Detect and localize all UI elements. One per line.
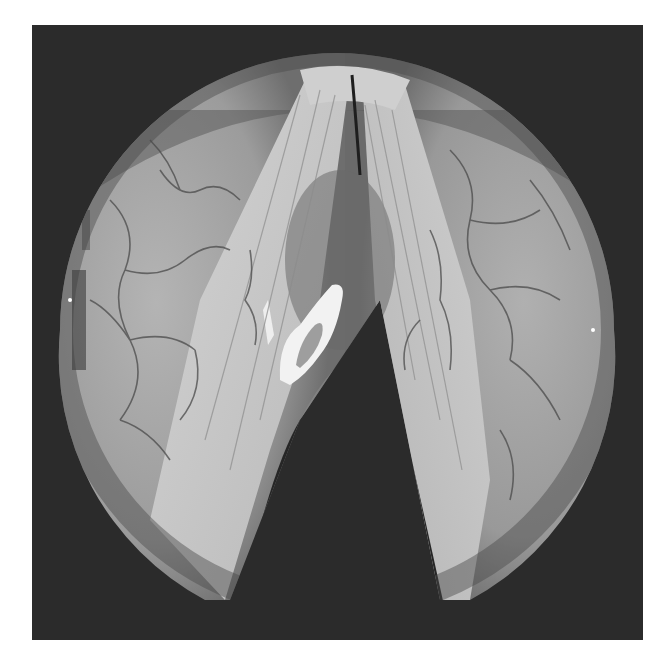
laryngoscopy-photo [0,0,665,661]
endoscope-field [55,50,620,610]
specular-highlight [591,328,595,332]
specular-highlight [68,298,72,302]
